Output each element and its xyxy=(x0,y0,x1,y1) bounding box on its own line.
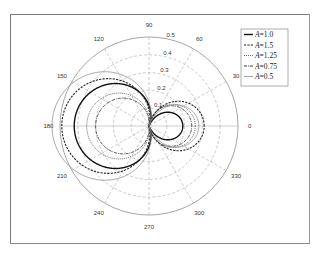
radial-tick-label: 0.2 xyxy=(157,85,166,91)
angle-tick-label: 300 xyxy=(194,210,205,216)
legend-entry-label: A=1.25 xyxy=(254,51,277,60)
polar-chart: 0306090120150180210240270300330 0.10.20.… xyxy=(0,0,322,255)
radial-tick-label: 0.5 xyxy=(166,32,175,38)
angle-tick-label: 0 xyxy=(248,123,252,129)
legend-entry-label: A=0.5 xyxy=(254,72,273,81)
angle-tick-label: 90 xyxy=(146,22,153,28)
angle-tick-label: 240 xyxy=(94,210,105,216)
radial-tick-label: 0.3 xyxy=(160,67,169,73)
angle-tick-label: 270 xyxy=(144,224,155,230)
angle-tick-label: 120 xyxy=(94,36,105,42)
radial-tick-label: 0.4 xyxy=(163,50,172,56)
angle-tick-label: 210 xyxy=(57,173,68,179)
angle-tick-label: 150 xyxy=(57,73,68,79)
angle-tick-label: 60 xyxy=(196,36,203,42)
radial-tick-labels: 0.10.20.30.40.5 xyxy=(154,32,175,108)
angle-tick-label: 330 xyxy=(231,173,242,179)
angle-tick-label: 30 xyxy=(233,73,240,79)
legend-entry-label: A=1.0 xyxy=(254,30,273,39)
legend: A=1.0A=1.5A=1.25A=0.75A=0.5 xyxy=(241,29,288,86)
angle-tick-label: 180 xyxy=(43,123,54,129)
legend-entry-label: A=1.5 xyxy=(254,41,273,50)
legend-entry-label: A=0.75 xyxy=(254,62,277,71)
